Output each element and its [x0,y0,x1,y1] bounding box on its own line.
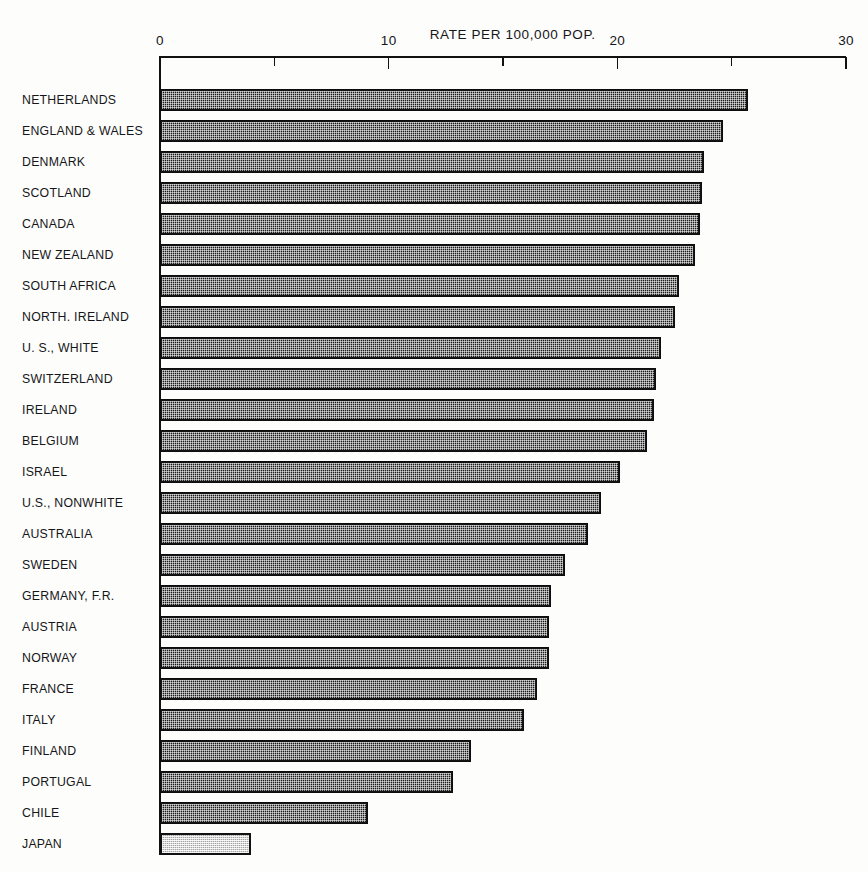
bar-new-zealand [160,244,695,266]
bar-row: SWITZERLAND [0,368,868,399]
bar-label-ireland: IRELAND [22,402,152,419]
x-tick-label-20: 20 [610,33,626,48]
bar-label-belgium: BELGIUM [22,433,152,450]
bar-row: BELGIUM [0,430,868,461]
bar-germany-f-r [160,585,551,607]
bar-label-sweden: SWEDEN [22,557,152,574]
bar-row: JAPAN [0,833,868,864]
bar-portugal [160,771,453,793]
bar-row: CANADA [0,213,868,244]
bar-label-u-s-nonwhite: U.S., NONWHITE [22,495,152,512]
x-tick-major-20 [617,57,619,69]
bar-row: SWEDEN [0,554,868,585]
bar-row: FRANCE [0,678,868,709]
bar-label-israel: ISRAEL [22,464,152,481]
bar-row: NETHERLANDS [0,89,868,120]
bar-row: SCOTLAND [0,182,868,213]
bar-row: U.S., NONWHITE [0,492,868,523]
bar-chile [160,802,368,824]
bar-label-france: FRANCE [22,681,152,698]
bar-u-s-nonwhite [160,492,601,514]
bar-south-africa [160,275,679,297]
bar-label-scotland: SCOTLAND [22,185,152,202]
bar-label-australia: AUSTRALIA [22,526,152,543]
bar-canada [160,213,700,235]
bar-israel [160,461,620,483]
bar-label-japan: JAPAN [22,836,152,853]
chart-title-text: RATE PER 100,000 POP. [430,27,596,42]
x-tick-label-10: 10 [381,33,397,48]
x-tick-minor-25 [731,57,733,66]
bar-scotland [160,182,702,204]
bar-belgium [160,430,647,452]
bar-row: FINLAND [0,740,868,771]
bar-label-canada: CANADA [22,216,152,233]
bar-label-u-s-white: U. S., WHITE [22,340,152,357]
bar-row: NEW ZEALAND [0,244,868,275]
x-tick-minor-15 [502,57,504,66]
bar-row: NORWAY [0,647,868,678]
chart-page: RATE PER 100,000 POP. 0102030 NETHERLAND… [0,0,868,872]
x-tick-major-0 [159,57,161,69]
chart-title: RATE PER 100,000 POP. [0,12,868,57]
bar-italy [160,709,524,731]
bar-row: PORTUGAL [0,771,868,802]
bar-finland [160,740,471,762]
bar-label-chile: CHILE [22,805,152,822]
bar-row: SOUTH AFRICA [0,275,868,306]
bar-label-switzerland: SWITZERLAND [22,371,152,388]
bar-row: IRELAND [0,399,868,430]
bar-france [160,678,537,700]
bar-label-north-ireland: NORTH. IRELAND [22,309,152,326]
bar-label-norway: NORWAY [22,650,152,667]
x-tick-minor-5 [274,57,276,66]
bar-netherlands [160,89,748,111]
bar-row: DENMARK [0,151,868,182]
bar-label-denmark: DENMARK [22,154,152,171]
x-tick-label-30: 30 [838,33,854,48]
bar-label-finland: FINLAND [22,743,152,760]
bar-row: U. S., WHITE [0,337,868,368]
bar-denmark [160,151,704,173]
bar-label-germany-f-r: GERMANY, F.R. [22,588,152,605]
bar-row: ENGLAND & WALES [0,120,868,151]
bar-rows: NETHERLANDSENGLAND & WALESDENMARKSCOTLAN… [0,89,868,864]
x-tick-label-0: 0 [156,33,164,48]
bar-norway [160,647,549,669]
x-tick-major-30 [845,57,847,69]
bar-austria [160,616,549,638]
bar-label-portugal: PORTUGAL [22,774,152,791]
bar-row: NORTH. IRELAND [0,306,868,337]
bar-sweden [160,554,565,576]
x-tick-major-10 [388,57,390,69]
bar-row: AUSTRIA [0,616,868,647]
bar-label-new-zealand: NEW ZEALAND [22,247,152,264]
bar-ireland [160,399,654,421]
bar-row: GERMANY, F.R. [0,585,868,616]
bar-row: AUSTRALIA [0,523,868,554]
bar-australia [160,523,588,545]
bar-label-england-wales: ENGLAND & WALES [22,123,152,140]
bar-row: ISRAEL [0,461,868,492]
bar-label-italy: ITALY [22,712,152,729]
bar-label-south-africa: SOUTH AFRICA [22,278,152,295]
bar-japan [160,833,251,855]
bar-u-s-white [160,337,661,359]
bar-row: CHILE [0,802,868,833]
bar-label-austria: AUSTRIA [22,619,152,636]
bar-england-wales [160,120,723,142]
bar-label-netherlands: NETHERLANDS [22,92,152,109]
bar-row: ITALY [0,709,868,740]
bar-switzerland [160,368,656,390]
bar-north-ireland [160,306,675,328]
